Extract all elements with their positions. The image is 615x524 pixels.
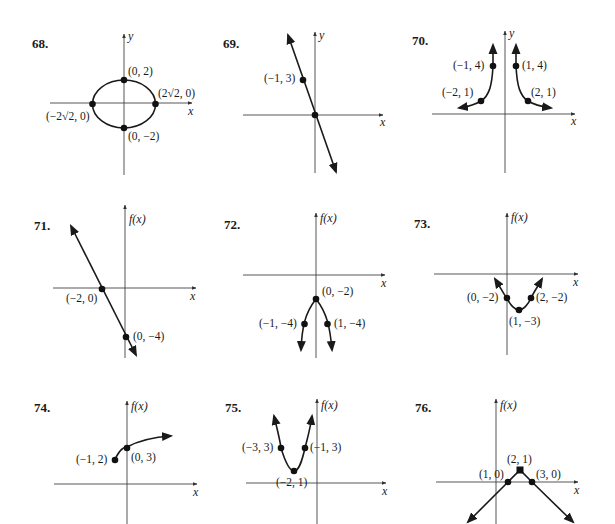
- y-axis-label-71: f(x): [129, 212, 146, 227]
- point-label: (1, −4): [334, 317, 365, 329]
- point-label: (−2, 1): [442, 86, 473, 98]
- graphs-canvas: [0, 0, 615, 524]
- y-axis-label-76: f(x): [500, 398, 517, 413]
- x-axis-label-74: x: [193, 485, 198, 500]
- problem-number-71: 71.: [34, 218, 50, 234]
- problem-number-69: 69.: [223, 36, 239, 52]
- x-axis-label-68: x: [188, 104, 193, 119]
- point-label: (2, 1): [507, 453, 532, 465]
- point-label: (3, 0): [536, 468, 561, 480]
- problem-number-76: 76.: [415, 400, 431, 416]
- point-label: (0, 2): [128, 65, 153, 77]
- y-axis-label-73: f(x): [511, 210, 528, 225]
- problem-number-74: 74.: [34, 400, 50, 416]
- x-axis-label-71: x: [190, 289, 195, 304]
- point-label: (−2, 1): [276, 476, 307, 488]
- graph-70: [432, 31, 575, 173]
- problem-number-75: 75.: [225, 400, 241, 416]
- point-label: (1, −3): [509, 315, 540, 327]
- y-axis-label-75: f(x): [321, 398, 338, 413]
- x-axis-label-75: x: [382, 484, 387, 499]
- point-label: (−2, 0): [66, 292, 97, 304]
- y-axis-label-69: y: [319, 28, 324, 43]
- point-label: (0, −2): [128, 130, 159, 142]
- x-axis-label-70: x: [571, 114, 576, 129]
- point-label: (0, 3): [131, 451, 156, 463]
- y-axis-label-72: f(x): [320, 211, 337, 226]
- problem-number-68: 68.: [32, 36, 48, 52]
- point-label: (2, −2): [536, 291, 567, 303]
- point-label: (0, −2): [322, 285, 353, 297]
- x-axis-label-69: x: [380, 115, 385, 130]
- graph-73: [434, 213, 578, 355]
- point-label: (−1, 4): [453, 59, 484, 71]
- exercise-page: 68. 69. 70. 71. 72. 73. 74. 75. 76. y x …: [0, 0, 615, 524]
- x-axis-label-72: x: [381, 276, 386, 291]
- point-label: (−2√2, 0): [46, 110, 89, 122]
- point-label: (1, 4): [522, 59, 547, 71]
- point-label: (−1, 2): [76, 453, 107, 465]
- graph-72: [243, 213, 385, 358]
- point-label: (1, 0): [479, 468, 504, 480]
- point-label: (2√2, 0): [158, 87, 195, 99]
- graph-68: [50, 34, 192, 175]
- point-label: (0, −2): [467, 291, 498, 303]
- x-axis-label-73: x: [573, 275, 578, 290]
- problem-number-70: 70.: [412, 33, 428, 49]
- point-label: (−1, 3): [264, 72, 295, 84]
- y-axis-label-74: f(x): [131, 399, 148, 414]
- y-axis-label-68: y: [128, 29, 133, 44]
- problem-number-72: 72.: [224, 217, 240, 233]
- point-label: (−1, −4): [259, 317, 297, 329]
- point-label: (2, 1): [531, 86, 556, 98]
- graph-71: [53, 205, 196, 358]
- problem-number-73: 73.: [414, 216, 430, 232]
- graph-75: [246, 399, 386, 524]
- x-axis-label-76: x: [574, 483, 579, 498]
- point-label: (−1, 3): [310, 441, 341, 453]
- graph-69: [243, 32, 383, 173]
- point-label: (−3, 3): [242, 441, 273, 453]
- y-axis-label-70: y: [509, 26, 514, 41]
- point-label: (0, −4): [133, 330, 164, 342]
